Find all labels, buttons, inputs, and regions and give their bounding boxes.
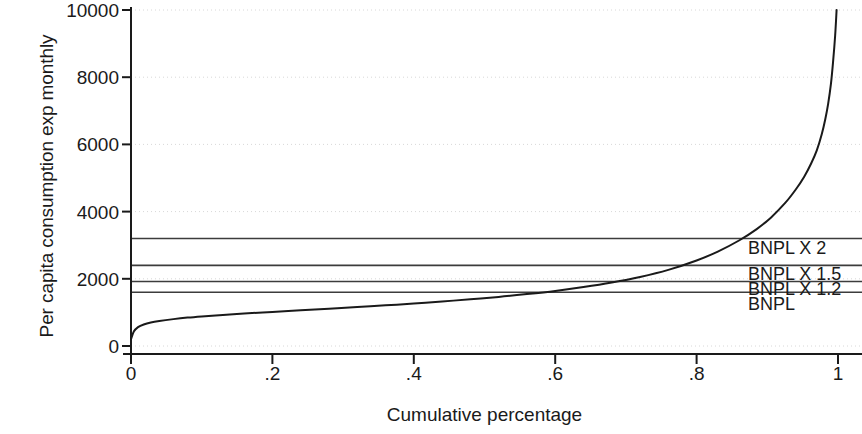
x-tick-label: .2 [242,364,302,383]
x-tick-label: 0 [101,364,161,383]
x-tick-label: 1 [808,364,862,383]
x-tick-label: .4 [384,364,444,383]
x-axis-title: Cumulative percentage [131,404,838,426]
y-tick-label: 8000 [29,68,119,87]
y-tick-label: 6000 [29,135,119,154]
y-tick-label: 2000 [29,269,119,288]
reference-line-label: BNPL [748,295,795,313]
y-tick-label: 0 [29,337,119,356]
chart-figure: Per capita consumption exp monthly Cumul… [0,0,862,434]
reference-line-label: BNPL X 2 [748,239,826,257]
x-tick-label: .6 [525,364,585,383]
x-tick-label: .8 [667,364,727,383]
y-tick-label: 10000 [29,1,119,20]
y-tick-label: 4000 [29,202,119,221]
data-curve [131,10,837,339]
